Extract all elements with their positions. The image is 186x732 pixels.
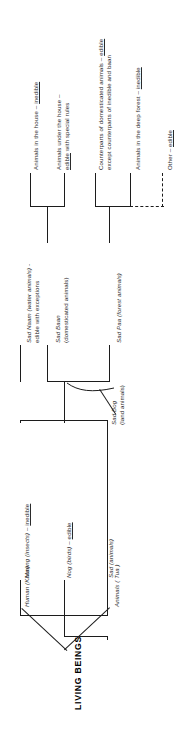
node-label-sad-naam-line2: edible with exceptions: [33, 233, 41, 343]
bracket-sad-paa-dashed-ext: [130, 206, 164, 207]
verdict-nog: edible: [65, 522, 72, 539]
root-edge-animals: [64, 607, 110, 650]
node-label-sad-bog-line1: Sad Bog: [110, 365, 118, 425]
bracket-sad-left-tick: [20, 420, 21, 423]
diagram-canvas: Animals in the house – inedible Animals …: [0, 0, 186, 732]
bracket-animals-tua-trunk: [64, 615, 65, 637]
bracket-sad-right: [64, 420, 108, 421]
node-label-animals-tua: Animals ( Tua ): [113, 564, 121, 607]
stem-sad-baan: [47, 345, 48, 382]
stem-maeng: [20, 580, 21, 616]
bracket-sad-baan-trunk: [47, 206, 48, 243]
stem-sad-naam: [20, 345, 21, 382]
leaf-text-counterparts-line2: except counterparts of inedible and baan: [105, 39, 113, 170]
verdict-maeng: inedible: [23, 504, 30, 526]
leaf-text-animals-under-house-line2: edible with special rules: [63, 94, 71, 170]
node-label-sad-baan: Sad Baan (domesticated animals): [54, 243, 69, 343]
leaf-text-animals-in-house: Animals in the house –: [32, 104, 39, 170]
verdict-inedible: inedible: [32, 82, 39, 104]
leaf-label-animals-under-house: Animals under the house – edible with sp…: [55, 94, 70, 170]
link-sad-to-children: [107, 443, 108, 580]
stem-nog: [64, 580, 65, 616]
node-label-sad-naam: Sad Naam (water animals) - edible with e…: [25, 233, 40, 343]
node-label-sad-naam-line1: Sad Naam (water animals) -: [25, 233, 33, 343]
node-label-sad-bog: Sad Bog (land animals): [110, 365, 125, 425]
stem-animals-in-house: [30, 173, 31, 207]
bracket-animals-tua-arm: [64, 636, 108, 637]
sad-bog-pointer-curve: [66, 382, 116, 398]
stem-other-dashed: [162, 173, 163, 207]
stem-animals-under-house: [64, 173, 65, 207]
leaf-text-counterparts-line1: Counterparts of domesticated animals – e…: [97, 39, 105, 170]
root-label-living-beings: LIVING BEINGS: [73, 636, 84, 710]
leaf-label-animals-in-house: Animals in the house – inedible: [32, 82, 40, 170]
bracket-animals-tua-tick: [107, 636, 108, 640]
leaf-label-animals-deep-forest: Animals in the deep forest – inedible: [134, 67, 142, 170]
node-text-animals-tua: Animals ( Tua ): [113, 564, 120, 607]
stem-deep-forest: [130, 173, 131, 207]
stem-sad-down: [107, 420, 108, 444]
leaf-label-counterparts-domesticated: Counterparts of domesticated animals – e…: [97, 39, 112, 170]
stem-counterparts: [95, 173, 96, 207]
leaf-text-special-rules: with special rules: [63, 103, 70, 153]
node-text-nog: Nog (birds) –: [65, 539, 72, 578]
verdict-edible-other: edible: [166, 130, 173, 147]
node-label-sad-paa-line1: Sad Paa (forest animals): [115, 273, 122, 343]
verdict-inedible-forest: inedible: [134, 67, 141, 89]
verdict-edible-special: edible: [63, 153, 70, 170]
node-label-sad-baan-line2: (domesticated animals): [62, 243, 70, 343]
node-label-sad-paa: Sad Paa (forest animals): [115, 273, 123, 343]
bracket-sad-paa: [95, 206, 131, 207]
node-label-human: Human (Khon): [23, 566, 31, 607]
node-label-nog: Nog (birds) – edible: [65, 522, 73, 578]
node-label-sad-baan-line1: Sad Baan: [54, 243, 62, 343]
node-text-human: Human (Khon): [23, 566, 30, 607]
leaf-text-animals-under-house-line1: Animals under the house –: [55, 94, 63, 170]
root-text: LIVING BEINGS: [73, 636, 83, 710]
bracket-sad-paa-trunk: [109, 206, 110, 243]
bracket-sad: [20, 420, 65, 421]
node-label-sad-bog-line2: (land animals): [118, 365, 126, 425]
leaf-label-other: Other – edible: [166, 130, 174, 170]
bracket-sad-bog-trunk: [64, 381, 65, 423]
verdict-edible-counterparts: edible: [97, 39, 104, 56]
